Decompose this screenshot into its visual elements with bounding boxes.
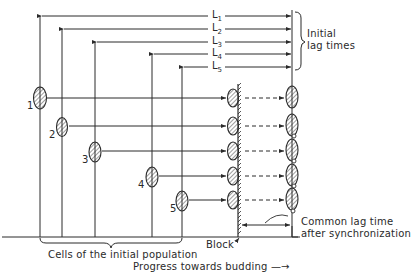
cell-number-1: 1 [27, 101, 33, 111]
block-label: Block [206, 240, 234, 250]
initial-lag-label-line2: lag times [307, 41, 355, 51]
cell-number-5: 5 [170, 204, 176, 214]
cell-number-2: 2 [49, 130, 55, 140]
common-lag-label-line2: after synchronization [301, 229, 411, 239]
cell-number-4: 4 [138, 180, 144, 190]
progress-label: Progress towards budding —→ [133, 262, 290, 272]
cell-number-3: 3 [82, 155, 88, 165]
cell-1 [34, 87, 47, 109]
cells-caption: Cells of the initial population [48, 250, 198, 260]
common-lag-label-line1: Common lag time [301, 217, 393, 227]
cell-5 [176, 191, 188, 211]
cell-4 [146, 167, 158, 187]
initial-lag-label-line1: Initial [307, 29, 336, 39]
cell-3 [89, 142, 101, 162]
lag-label-L5: L5 [212, 61, 222, 74]
cell-2 [57, 118, 68, 137]
